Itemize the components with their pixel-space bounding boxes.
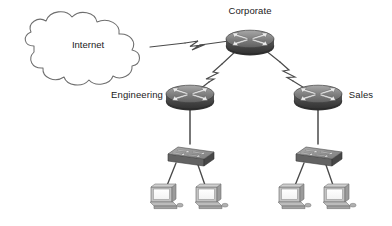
engineering-router-label: Engineering (111, 89, 163, 100)
corporate-router-label: Corporate (228, 5, 271, 16)
internet-cloud-label: Internet (72, 39, 105, 50)
network-topology-diagram: Internet Corporate Engineering Sales (0, 0, 392, 226)
router-icon (166, 85, 214, 110)
sales-router-label: Sales (349, 89, 373, 100)
router-icon (226, 30, 274, 55)
router-icon (294, 85, 342, 110)
diagram-canvas: Internet Corporate Engineering Sales (0, 0, 392, 226)
